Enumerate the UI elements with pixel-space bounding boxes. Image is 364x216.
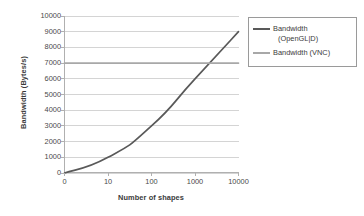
x-tick-label: 100 <box>127 177 177 186</box>
y-tick-label: 5000 <box>30 91 61 98</box>
y-tick-label: 10000 <box>30 12 61 19</box>
plot-area <box>64 16 239 173</box>
x-tick-label: 10 <box>83 177 133 186</box>
legend-entry-bandwidth-vnc: Bandwidth (VNC) <box>253 48 354 58</box>
y-tick-label: 7000 <box>30 59 61 66</box>
legend-label-line1: Bandwidth (VNC) <box>273 48 330 57</box>
y-tick-mark <box>61 16 64 17</box>
y-tick-label: 9000 <box>30 28 61 35</box>
x-tick-label: 1000 <box>170 177 220 186</box>
y-tick-mark <box>61 47 64 48</box>
y-tick-label: 6000 <box>30 75 61 82</box>
legend-entry-bandwidth-opengl: Bandwidth (OpenGL|D) <box>253 24 354 44</box>
x-tick-label: 10000 <box>214 177 264 186</box>
x-tick-mark <box>238 173 239 176</box>
y-tick-label: 8000 <box>30 44 61 51</box>
y-tick-mark <box>61 78 64 79</box>
legend-swatch-icon <box>253 28 270 30</box>
y-tick-mark <box>61 141 64 142</box>
series-lines <box>64 16 239 173</box>
x-axis-title: Number of shapes <box>56 193 246 202</box>
legend-label-line2: (OpenGL|D) <box>273 34 354 44</box>
y-axis-tick-labels: 0100020003000400050006000700080009000100… <box>30 16 61 173</box>
y-tick-label: 0 <box>30 169 61 176</box>
y-axis-title: Bandwidth (Bytes/s) <box>19 33 28 153</box>
x-tick-label: 0 <box>40 177 90 186</box>
y-tick-mark <box>61 110 64 111</box>
y-tick-mark <box>61 157 64 158</box>
x-tick-mark <box>64 173 65 176</box>
x-tick-mark <box>151 173 152 176</box>
chart-legend: Bandwidth (OpenGL|D) Bandwidth (VNC) <box>248 17 357 67</box>
legend-label: Bandwidth (VNC) <box>273 48 354 58</box>
y-tick-label: 3000 <box>30 122 61 129</box>
x-axis-tick-labels: 010100100010000 <box>64 177 239 189</box>
x-tick-mark <box>108 173 109 176</box>
legend-label: Bandwidth (OpenGL|D) <box>273 24 354 44</box>
y-tick-label: 4000 <box>30 106 61 113</box>
legend-swatch-icon <box>253 52 270 54</box>
y-tick-mark <box>61 31 64 32</box>
y-tick-label: 2000 <box>30 138 61 145</box>
y-tick-mark <box>61 94 64 95</box>
legend-label-line1: Bandwidth <box>273 24 308 33</box>
line-chart: Bandwidth (Bytes/s) 01000200030004000500… <box>0 0 364 216</box>
y-tick-mark <box>61 63 64 64</box>
y-tick-label: 1000 <box>30 154 61 161</box>
x-tick-mark <box>195 173 196 176</box>
series-line-0 <box>65 32 239 173</box>
y-tick-mark <box>61 125 64 126</box>
